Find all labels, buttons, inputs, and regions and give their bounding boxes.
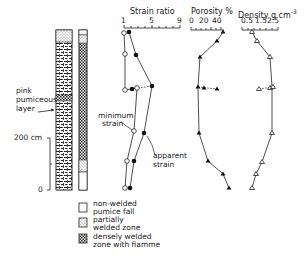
density-tick-1-5: 1.5 [255, 17, 267, 25]
figure-graphics [0, 0, 304, 256]
apparent-strain-markers [127, 30, 155, 191]
density-tick-0-5: 0.5 [241, 17, 253, 25]
strain-ratio-axis [124, 25, 180, 28]
legend-dense-line2: zone with fiamme [93, 241, 160, 249]
strain-tick-1: 1 [121, 17, 126, 25]
legend-partial-line2: welded zone [93, 224, 140, 232]
porosity-tick-0: 0 [189, 17, 194, 25]
porosity-line [198, 32, 229, 188]
pink-layer-label-2: pumiceous [16, 96, 57, 104]
strain-tick-5: 5 [149, 17, 154, 25]
porosity-tick-20: 20 [199, 17, 209, 25]
apparent-strain-label-2: strain [153, 161, 174, 169]
density-axis [242, 27, 278, 30]
welding-column [79, 30, 87, 190]
scale-bottom-label: 0 [38, 186, 43, 194]
apparent-strain-label-1: apparent [153, 152, 187, 160]
strain-tick-9: 9 [177, 17, 182, 25]
strain-ratio-title: Strain ratio [130, 8, 175, 16]
density-tick-2-5: 2.5 [267, 17, 279, 25]
porosity-axis [191, 27, 224, 30]
apparent-strain-line [129, 32, 152, 188]
porosity-title: Porosity % [191, 8, 233, 16]
scale-bar [47, 138, 52, 190]
porosity-tick-40: 40 [212, 17, 222, 25]
lithologic-column [56, 30, 72, 190]
minimum-strain-label-2: strain [102, 120, 123, 128]
legend-swatch-partial [79, 218, 87, 227]
legend-swatch-dense [79, 234, 87, 243]
scale-top-label: 200 cm [14, 134, 42, 142]
pink-layer-label-3: layer [16, 105, 35, 113]
legend-swatch-nonwelded [79, 203, 87, 212]
pink-layer-label-1: pink [16, 87, 32, 95]
